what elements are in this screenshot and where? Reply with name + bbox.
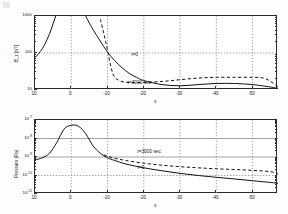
top-panel-plot-area bbox=[34, 15, 277, 89]
y-minor-tick bbox=[34, 60, 36, 61]
bottom-panel-plot-area bbox=[34, 119, 277, 193]
y-minor-tick bbox=[275, 17, 277, 18]
y-minor-tick bbox=[275, 125, 277, 126]
y-minor-tick bbox=[34, 175, 36, 176]
y-minor-tick bbox=[34, 78, 36, 79]
curve-annotation: t=0 bbox=[137, 165, 144, 170]
y-minor-tick bbox=[34, 182, 36, 183]
x-tick-mark bbox=[34, 86, 35, 89]
x-tick-mark bbox=[179, 190, 180, 193]
y-tick-label: 10-9 bbox=[10, 153, 32, 159]
y-minor-tick bbox=[275, 163, 277, 164]
y-minor-tick bbox=[275, 23, 277, 24]
y-minor-tick bbox=[275, 26, 277, 27]
y-minor-tick bbox=[34, 58, 36, 59]
y-minor-tick bbox=[275, 142, 277, 143]
y-minor-tick bbox=[275, 160, 277, 161]
y-tick-label: 10-10 bbox=[10, 172, 32, 178]
y-minor-tick bbox=[275, 157, 277, 158]
y-minor-tick bbox=[34, 30, 36, 31]
top-panel-gridlines bbox=[35, 16, 278, 90]
x-tick-mark bbox=[107, 190, 108, 193]
y-minor-tick bbox=[34, 159, 36, 160]
y-minor-tick bbox=[275, 34, 277, 35]
y-minor-tick bbox=[275, 179, 277, 180]
bottom-panel-curves bbox=[35, 120, 278, 194]
y-minor-tick bbox=[275, 56, 277, 57]
y-minor-tick bbox=[275, 21, 277, 22]
y-minor-tick bbox=[275, 177, 277, 178]
y-minor-tick bbox=[275, 140, 277, 141]
y-minor-tick bbox=[275, 78, 277, 79]
x-tick-label: 10 bbox=[24, 92, 44, 97]
y-minor-tick bbox=[34, 123, 36, 124]
y-minor-tick bbox=[275, 176, 277, 177]
x-tick-label: -10 bbox=[97, 92, 117, 97]
y-minor-tick bbox=[275, 126, 277, 127]
y-minor-tick bbox=[34, 19, 36, 20]
y-minor-tick bbox=[275, 150, 277, 151]
y-minor-tick bbox=[275, 143, 277, 144]
y-minor-tick bbox=[34, 34, 36, 35]
y-minor-tick bbox=[275, 54, 277, 55]
y-minor-tick bbox=[275, 67, 277, 68]
y-minor-tick bbox=[34, 71, 36, 72]
y-minor-tick bbox=[275, 162, 277, 163]
top-panel-x-axis-title: x bbox=[154, 99, 156, 104]
x-tick-mark bbox=[215, 86, 216, 89]
x-tick-label: 10 bbox=[24, 196, 44, 201]
y-minor-tick bbox=[34, 143, 36, 144]
y-minor-tick bbox=[34, 179, 36, 180]
x-tick-label: -50 bbox=[242, 196, 262, 201]
y-minor-tick bbox=[34, 160, 36, 161]
y-minor-tick bbox=[275, 147, 277, 148]
y-tick-label: 10-7 bbox=[10, 116, 32, 122]
y-minor-tick bbox=[34, 120, 36, 121]
y-minor-tick bbox=[34, 163, 36, 164]
bottom-panel-gridlines bbox=[35, 120, 278, 194]
y-minor-tick bbox=[34, 145, 36, 146]
y-minor-tick bbox=[34, 41, 36, 42]
y-minor-tick bbox=[34, 166, 36, 167]
y-minor-tick bbox=[34, 121, 36, 122]
y-minor-tick bbox=[275, 184, 277, 185]
y-minor-tick bbox=[275, 158, 277, 159]
y-minor-tick bbox=[275, 123, 277, 124]
y-minor-tick bbox=[34, 177, 36, 178]
y-minor-tick bbox=[275, 139, 277, 140]
y-minor-tick bbox=[34, 147, 36, 148]
y-minor-tick bbox=[275, 19, 277, 20]
x-tick-label: -40 bbox=[205, 196, 225, 201]
y-minor-tick bbox=[34, 169, 36, 170]
y-minor-tick bbox=[34, 132, 36, 133]
x-tick-label: 0 bbox=[60, 92, 80, 97]
x-tick-mark bbox=[179, 86, 180, 89]
y-tick-mark bbox=[34, 89, 37, 90]
x-tick-label: -20 bbox=[133, 196, 153, 201]
x-tick-label: -30 bbox=[169, 196, 189, 201]
y-tick-label: 1000 bbox=[14, 13, 32, 17]
y-minor-tick bbox=[34, 56, 36, 57]
y-minor-tick bbox=[34, 23, 36, 24]
curve-annotation: t=0 bbox=[131, 52, 138, 57]
curve-annotation: t=3000 sec bbox=[137, 149, 161, 154]
y-minor-tick bbox=[34, 126, 36, 127]
y-minor-tick bbox=[34, 180, 36, 181]
y-minor-tick bbox=[275, 121, 277, 122]
y-minor-tick bbox=[34, 63, 36, 64]
y-minor-tick bbox=[275, 166, 277, 167]
y-minor-tick bbox=[275, 63, 277, 64]
y-minor-tick bbox=[275, 120, 277, 121]
x-tick-mark bbox=[143, 190, 144, 193]
x-tick-mark bbox=[252, 190, 253, 193]
y-minor-tick bbox=[275, 41, 277, 42]
y-minor-tick bbox=[34, 139, 36, 140]
y-minor-tick bbox=[275, 145, 277, 146]
x-tick-mark bbox=[34, 190, 35, 193]
x-tick-mark bbox=[107, 86, 108, 89]
x-tick-label: -10 bbox=[97, 196, 117, 201]
x-tick-label: -40 bbox=[205, 92, 225, 97]
y-minor-tick bbox=[34, 140, 36, 141]
y-minor-tick bbox=[34, 21, 36, 22]
x-tick-label: -50 bbox=[242, 92, 262, 97]
